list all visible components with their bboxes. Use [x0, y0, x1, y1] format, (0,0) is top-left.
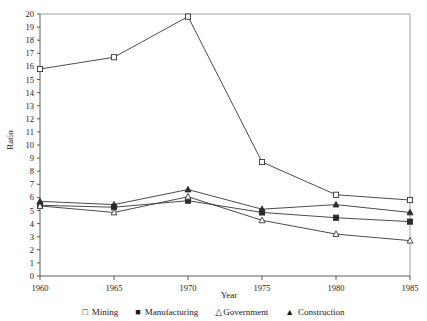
- data-point-marker: [111, 55, 116, 60]
- legend-label-manufacturing: Manufacturing: [145, 307, 198, 317]
- data-point-marker: [185, 194, 191, 200]
- y-tick-label: 18: [26, 35, 35, 45]
- y-tick-label: 2: [30, 245, 34, 255]
- chart-container: 01234567891011121314151617181920 1960196…: [0, 0, 427, 321]
- data-point-marker: [259, 159, 264, 164]
- data-point-marker: [185, 14, 190, 19]
- y-tick-label: 14: [26, 88, 35, 98]
- line-chart: 01234567891011121314151617181920 1960196…: [0, 0, 427, 321]
- data-point-marker: [37, 198, 43, 204]
- data-point-marker: [407, 197, 412, 202]
- filled-square-icon: ■: [135, 308, 140, 317]
- series-mining: [37, 14, 412, 203]
- legend-label-government: Government: [223, 307, 268, 317]
- legend-item-construction: ▲ Construction: [285, 307, 344, 317]
- y-tick-label: 20: [26, 9, 35, 19]
- y-axis-ticks: 01234567891011121314151617181920: [26, 9, 41, 281]
- y-tick-label: 5: [30, 206, 34, 216]
- y-axis-title: Ratio: [5, 130, 15, 150]
- y-tick-label: 13: [26, 101, 35, 111]
- plot-frame: [40, 14, 410, 276]
- x-tick-label: 1985: [402, 283, 419, 293]
- y-tick-label: 1: [30, 258, 34, 268]
- legend-label-construction: Construction: [298, 307, 345, 317]
- y-tick-label: 4: [30, 219, 35, 229]
- y-tick-label: 19: [26, 22, 35, 32]
- x-tick-label: 1970: [180, 283, 197, 293]
- x-axis-title: Year: [221, 290, 238, 300]
- y-tick-label: 12: [26, 114, 35, 124]
- y-tick-label: 3: [30, 232, 34, 242]
- legend-item-mining: □ Mining: [82, 307, 118, 317]
- y-tick-label: 0: [30, 271, 34, 281]
- legend-label-mining: Mining: [92, 307, 119, 317]
- y-tick-label: 17: [26, 48, 35, 58]
- data-point-marker: [333, 215, 338, 220]
- open-triangle-icon: △: [215, 308, 222, 317]
- legend-item-government: △ Government: [215, 307, 268, 317]
- chart-legend: □ Mining ■ Manufacturing △ Government ▲ …: [0, 307, 427, 317]
- x-tick-label: 1960: [32, 283, 49, 293]
- y-tick-label: 7: [30, 179, 34, 189]
- series-government: [37, 194, 413, 243]
- x-tick-label: 1975: [254, 283, 271, 293]
- y-tick-label: 8: [30, 166, 34, 176]
- y-tick-label: 9: [30, 153, 34, 163]
- open-square-icon: □: [82, 308, 87, 317]
- legend-item-manufacturing: ■ Manufacturing: [135, 307, 198, 317]
- series-manufacturing: [37, 198, 412, 224]
- data-point-marker: [185, 186, 191, 192]
- series-layer: [37, 14, 413, 243]
- y-tick-label: 10: [26, 140, 35, 150]
- filled-triangle-icon: ▲: [285, 308, 294, 317]
- y-tick-label: 15: [26, 75, 35, 85]
- y-tick-label: 6: [30, 192, 34, 202]
- data-point-marker: [333, 192, 338, 197]
- x-tick-label: 1980: [328, 283, 345, 293]
- data-point-marker: [37, 66, 42, 71]
- y-tick-label: 16: [26, 61, 35, 71]
- y-tick-label: 11: [26, 127, 34, 137]
- data-point-marker: [333, 201, 339, 207]
- x-tick-label: 1965: [106, 283, 123, 293]
- data-point-marker: [407, 219, 412, 224]
